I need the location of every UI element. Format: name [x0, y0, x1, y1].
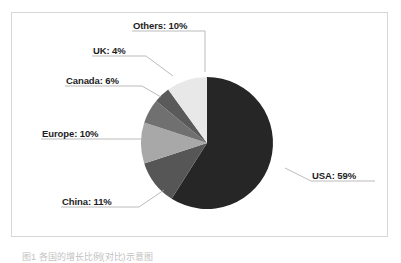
slice-label-uk: UK: 4%: [93, 45, 126, 56]
figure-caption: 图1 各国的增长比例(对比)示意图: [22, 250, 153, 263]
slice-label-usa: USA: 59%: [312, 170, 356, 181]
leader-line-canada: [142, 86, 161, 97]
leader-line-uk: [146, 56, 173, 76]
slice-label-europe: Europe: 10%: [42, 128, 98, 139]
slice-label-canada: Canada: 6%: [66, 75, 119, 86]
leader-line-china: [139, 190, 164, 207]
leader-line-usa: [285, 168, 311, 181]
slice-label-china: China: 11%: [62, 196, 112, 207]
slice-label-others: Others: 10%: [133, 20, 187, 31]
